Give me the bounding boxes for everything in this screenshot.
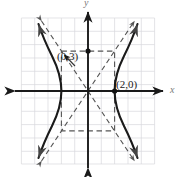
point-covertex-0-3 <box>85 49 90 54</box>
point-label-covertex: (0,3) <box>57 50 78 62</box>
point-label-vertex: (2,0) <box>116 78 137 90</box>
graph-figure: (0,3) (2,0) y x <box>0 0 180 177</box>
y-axis-label: y <box>84 0 88 8</box>
coordinate-plane-svg <box>0 0 180 177</box>
x-axis-label: x <box>170 84 174 95</box>
